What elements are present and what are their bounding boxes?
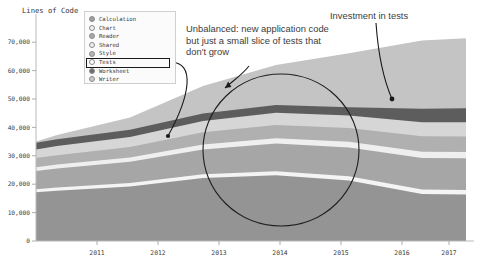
legend-swatch-icon	[89, 51, 95, 57]
leader-dot-investment	[390, 97, 395, 102]
chart-root: 0 10,000 20,000 30,000 40,000 50,000 60,…	[0, 0, 484, 262]
legend-item-label: Reader	[99, 32, 119, 41]
legend-item-label: Shared	[99, 41, 119, 50]
y-tick-label: 0	[26, 237, 30, 244]
leader-dot-tests	[166, 134, 170, 138]
y-tick-label: 30,000	[8, 152, 31, 159]
legend-item-chart[interactable]: Chart	[89, 24, 171, 33]
legend-swatch-icon	[89, 76, 95, 82]
legend-item-worksheet[interactable]: Worksheet	[89, 67, 171, 76]
x-tick-label: 2017	[441, 249, 457, 257]
annotation-investment: Investment in tests	[330, 10, 460, 22]
legend-item-shared[interactable]: Shared	[89, 41, 171, 50]
legend-swatch-icon	[89, 68, 95, 74]
x-tick-label: 2015	[333, 249, 349, 257]
legend-item-label: Calculation	[99, 15, 136, 24]
x-tick-label: 2014	[272, 249, 288, 257]
x-tick-label: 2012	[150, 249, 166, 257]
legend[interactable]: Calculation Chart Reader Shared Style Te…	[84, 11, 176, 84]
x-tick-label: 2016	[394, 249, 410, 257]
y-tick-label: 40,000	[8, 124, 31, 131]
legend-highlight-box-tests	[86, 58, 170, 68]
legend-item-label: Chart	[99, 24, 116, 33]
y-tick-label: 50,000	[8, 95, 31, 102]
legend-item-reader[interactable]: Reader	[89, 32, 171, 41]
legend-swatch-icon	[89, 16, 95, 22]
y-tick-label: 10,000	[8, 209, 31, 216]
y-tick-label: 70,000	[8, 38, 31, 45]
legend-item-writer[interactable]: Writer	[89, 75, 171, 84]
legend-item-calculation[interactable]: Calculation	[89, 15, 171, 24]
legend-item-label: Worksheet	[99, 67, 129, 76]
legend-item-label: Writer	[99, 75, 119, 84]
legend-swatch-icon	[89, 42, 95, 48]
y-tick-label: 20,000	[8, 180, 31, 187]
x-tick-label: 2013	[211, 249, 227, 257]
y-tick-label: 60,000	[8, 67, 31, 74]
legend-swatch-icon	[89, 25, 95, 31]
legend-swatch-icon	[89, 33, 95, 39]
y-axis-title: Lines of Code	[22, 6, 78, 15]
annotation-unbalanced: Unbalanced: new application code but jus…	[186, 23, 338, 58]
x-tick-label: 2011	[89, 249, 105, 257]
